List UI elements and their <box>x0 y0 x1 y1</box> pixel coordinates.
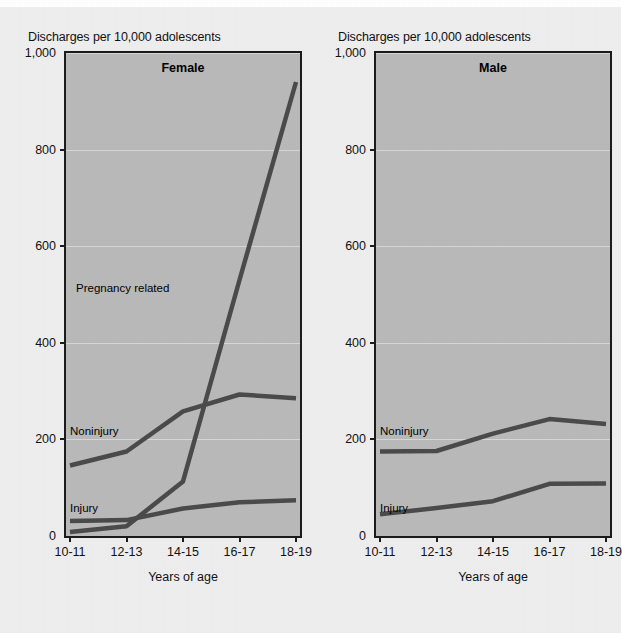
xaxis-tick-label: 12-13 <box>421 545 453 559</box>
yaxis-tick-mark <box>370 245 376 247</box>
yaxis-tick-label: 800 <box>318 143 366 157</box>
series-label-injury-female: Injury <box>70 502 98 514</box>
yaxis-tick-mark <box>60 438 66 440</box>
yaxis-tick-label: 600 <box>8 239 56 253</box>
xaxis-tick-label: 14-15 <box>477 545 509 559</box>
series-label-injury-male: Injury <box>380 502 408 514</box>
yaxis-tick-label: 600 <box>318 239 366 253</box>
xaxis-tick-mark <box>295 536 297 542</box>
yaxis-tick-label: 200 <box>8 432 56 446</box>
xaxis-tick-mark <box>239 536 241 542</box>
xaxis-tick-mark <box>605 536 607 542</box>
series-line-injury <box>70 500 296 521</box>
yaxis-caption-female: Discharges per 10,000 adolescents <box>28 30 221 44</box>
series-line-injury <box>380 483 606 514</box>
plot-area-female: Female Pregnancy related Noninjury Injur… <box>64 51 302 538</box>
yaxis-tick-label: 0 <box>318 529 366 543</box>
xaxis-tick-mark <box>549 536 551 542</box>
yaxis-tick-label: 200 <box>318 432 366 446</box>
yaxis-tick-mark <box>370 149 376 151</box>
yaxis-tick-label: 0 <box>8 529 56 543</box>
xaxis-tick-label: 10-11 <box>54 545 85 559</box>
xaxis-tick-label: 14-15 <box>167 545 199 559</box>
xaxis-tick-mark <box>126 536 128 542</box>
xaxis-tick-label: 12-13 <box>111 545 143 559</box>
series-label-noninjury-female: Noninjury <box>70 425 119 437</box>
series-lines-male <box>376 53 610 536</box>
series-label-pregnancy-related: Pregnancy related <box>76 282 169 294</box>
yaxis-tick-mark <box>60 342 66 344</box>
xaxis-title-female: Years of age <box>64 570 302 584</box>
chart-panel-female: Discharges per 10,000 adolescents Female… <box>8 0 308 633</box>
series-lines-female <box>66 53 300 536</box>
yaxis-tick-label: 1,000 <box>318 46 366 60</box>
yaxis-tick-mark <box>370 342 376 344</box>
xaxis-tick-mark <box>492 536 494 542</box>
xaxis-tick-label: 18-19 <box>590 545 622 559</box>
series-label-noninjury-male: Noninjury <box>380 425 429 437</box>
xaxis-tick-label: 18-19 <box>280 545 312 559</box>
xaxis-tick-mark <box>436 536 438 542</box>
xaxis-tick-label: 10-11 <box>364 545 395 559</box>
xaxis-title-male: Years of age <box>374 570 612 584</box>
yaxis-tick-label: 1,000 <box>8 46 56 60</box>
yaxis-caption-male: Discharges per 10,000 adolescents <box>338 30 531 44</box>
series-line-pregnancy-related <box>70 82 296 532</box>
yaxis-tick-label: 400 <box>318 336 366 350</box>
xaxis-tick-mark <box>69 536 71 542</box>
yaxis-tick-label: 800 <box>8 143 56 157</box>
xaxis-tick-label: 16-17 <box>534 545 566 559</box>
yaxis-tick-mark <box>370 438 376 440</box>
xaxis-tick-label: 16-17 <box>224 545 256 559</box>
chart-panel-male: Discharges per 10,000 adolescents Male N… <box>318 0 618 633</box>
xaxis-tick-mark <box>182 536 184 542</box>
xaxis-tick-mark <box>379 536 381 542</box>
yaxis-tick-mark <box>60 149 66 151</box>
yaxis-tick-label: 400 <box>8 336 56 350</box>
plot-area-male: Male Noninjury Injury <box>374 51 612 538</box>
yaxis-tick-mark <box>60 245 66 247</box>
